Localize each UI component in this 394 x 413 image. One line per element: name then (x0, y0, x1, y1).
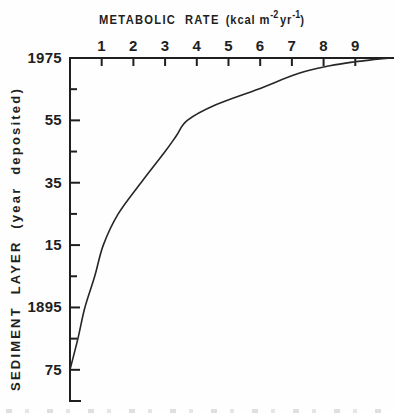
x-axis-tick-label: 5 (224, 37, 233, 54)
y-axis-tick-label: 1975 (27, 49, 62, 66)
figure: METABOLIC RATE(kcal m-2yr-1) SEDIMENT LA… (0, 0, 394, 413)
x-axis-tick-label: 2 (129, 37, 138, 54)
x-axis-tick-label: 3 (161, 37, 170, 54)
cropped-caption-top-edge (6, 409, 384, 413)
x-axis-tick-label: 9 (351, 37, 360, 54)
plot-area: 1234567891975553515189575 (0, 0, 394, 413)
x-axis-tick-label: 8 (319, 37, 328, 54)
x-axis-tick-label: 1 (97, 37, 106, 54)
y-axis-tick-label: 15 (45, 236, 62, 253)
y-axis-tick-label: 55 (45, 111, 62, 128)
metabolic-rate-curve (70, 58, 391, 370)
x-axis-tick-label: 4 (192, 37, 201, 54)
x-axis-tick-label: 6 (256, 37, 265, 54)
x-axis-tick-label: 7 (288, 37, 297, 54)
y-axis-tick-label: 1895 (27, 298, 62, 315)
y-axis-tick-label: 75 (45, 361, 62, 378)
y-axis-tick-label: 35 (45, 174, 62, 191)
